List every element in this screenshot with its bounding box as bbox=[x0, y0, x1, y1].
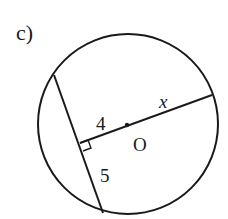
label-4: 4 bbox=[96, 113, 106, 134]
chord bbox=[54, 75, 103, 213]
label-5: 5 bbox=[100, 165, 110, 186]
label-center-o: O bbox=[133, 134, 147, 155]
problem-label: c) bbox=[16, 20, 33, 45]
right-angle-marker-icon bbox=[80, 140, 91, 151]
center-point bbox=[125, 123, 129, 127]
label-x: x bbox=[158, 91, 168, 112]
geometry-diagram: c) 4 O 5 x bbox=[0, 0, 228, 219]
